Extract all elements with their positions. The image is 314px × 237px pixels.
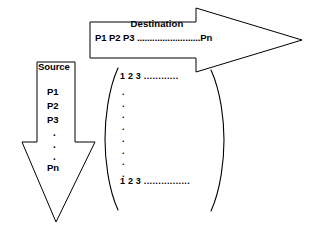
matrix-vertical-dot: . <box>122 111 125 120</box>
matrix-vertical-dot: . <box>122 135 125 144</box>
matrix-vertical-dot: . <box>122 88 125 97</box>
source-port-pn: Pn <box>47 163 59 173</box>
diagram-canvas: Destination P1 P2 P3 ...................… <box>0 0 314 237</box>
destination-title: Destination <box>104 19 210 29</box>
destination-ports-line: P1 P2 P3 .........................Pn <box>95 33 212 43</box>
matrix-vertical-dot: . <box>122 100 125 109</box>
matrix-bottom-row-ellipsis: ................ <box>144 176 190 186</box>
matrix-top-row-ellipsis: ............ <box>144 71 179 81</box>
matrix-right-bracket <box>211 70 224 211</box>
matrix-bottom-row: 1 2 3 ................ <box>120 177 190 186</box>
matrix-left-bracket <box>105 68 118 210</box>
matrix-bottom-row-values: 1 2 3 <box>120 176 141 186</box>
matrix-top-row: 1 2 3 ............ <box>120 72 179 81</box>
source-title: Source <box>38 62 70 72</box>
source-vertical-dot-3: . <box>53 152 56 162</box>
matrix-vertical-dot: . <box>122 147 125 156</box>
matrix-vertical-dot: . <box>122 123 125 132</box>
matrix-top-row-values: 1 2 3 <box>120 71 141 81</box>
matrix-vertical-dot: . <box>122 158 125 167</box>
source-vertical-dot-2: . <box>53 140 56 150</box>
source-port-p1: P1 <box>47 87 59 97</box>
source-port-p2: P2 <box>47 101 59 111</box>
source-vertical-dot-1: . <box>53 128 56 138</box>
source-port-p3: P3 <box>47 115 59 125</box>
